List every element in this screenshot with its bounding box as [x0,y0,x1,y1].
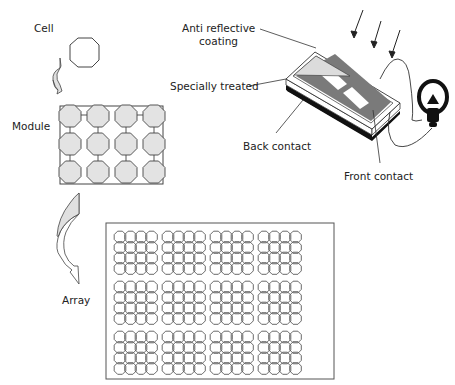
back-contact-label: Back contact [243,140,311,152]
module-label: Module [12,120,50,132]
curved-arrow-icon [53,58,62,94]
anti-reflective-label-1: Anti reflective [182,22,255,34]
cell-label: Cell [34,22,54,34]
curved-arrow-icon [57,193,79,284]
array-panel [106,223,334,379]
array-label: Array [62,294,90,306]
light-bulb-icon [419,81,447,127]
solar-pv-diagram [0,0,455,385]
module-panel [59,105,165,184]
anti-reflective-label-2: coating [199,35,238,47]
solar-cell-slab [286,52,400,141]
front-contact-label: Front contact [344,170,413,182]
sunlight-arrows-icon [351,10,400,58]
cell-icon [70,38,99,67]
specially-treated-label: Specially treated [170,80,259,92]
